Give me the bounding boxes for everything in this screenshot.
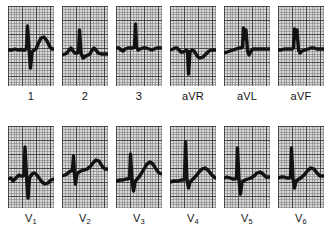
ecg-lead-v3: V3 [116,126,162,224]
ecg-trace-ii [62,6,108,86]
ecg-panel-avl [224,6,270,86]
ecg-panel-ii [62,6,108,86]
precordial-leads-row: V1V2V3V4V5V6 [0,126,329,224]
ecg-panel-v6 [278,126,324,208]
ecg-lead-v1: V1 [8,126,54,224]
ecg-trace-iii [116,6,162,86]
ecg-lead-v2: V2 [62,126,108,224]
ecg-trace-avl [224,6,270,86]
ecg-lead-label-text: V [241,212,249,224]
ecg-lead-label-iii: 3 [136,91,142,102]
ecg-lead-label-v2: V2 [79,213,91,224]
ecg-lead-v4: V4 [170,126,216,224]
ecg-lead-label-text: V [79,212,87,224]
ecg-lead-avl: aVL [224,6,270,102]
ecg-lead-ii: 2 [62,6,108,102]
ecg-lead-label-subscript: 3 [141,217,145,226]
ecg-lead-label-text: V [133,212,141,224]
ecg-lead-label-text: 2 [82,90,88,102]
ecg-lead-label-text: V [295,212,303,224]
ecg-trace-avf [278,6,324,86]
ecg-panel-iii [116,6,162,86]
ecg-lead-label-avf: aVF [291,91,312,102]
ecg-lead-label-v1: V1 [25,213,37,224]
ecg-lead-label-text: aVF [291,90,312,102]
ecg-trace-v1 [8,126,54,208]
ecg-panel-avr [170,6,216,86]
ecg-panel-v3 [116,126,162,208]
ecg-lead-label-subscript: 5 [249,217,253,226]
ecg-lead-v6: V6 [278,126,324,224]
ecg-lead-label-avr: aVR [182,91,204,102]
ecg-trace-v5 [224,126,270,208]
ecg-lead-label-subscript: 4 [195,217,199,226]
ecg-lead-i: 1 [8,6,54,102]
ecg-lead-label-avl: aVL [237,91,257,102]
ecg-panel-v5 [224,126,270,208]
ecg-trace-v4 [170,126,216,208]
ecg-trace-v3 [116,126,162,208]
ecg-panel-v4 [170,126,216,208]
ecg-lead-avr: aVR [170,6,216,102]
ecg-trace-i [8,6,54,86]
ecg-lead-label-subscript: 6 [303,217,307,226]
ecg-panel-avf [278,6,324,86]
ecg-lead-label-text: 3 [136,90,142,102]
ecg-lead-label-v3: V3 [133,213,145,224]
ecg-lead-label-text: V [25,212,33,224]
ecg-lead-label-text: V [187,212,195,224]
ecg-trace-v6 [278,126,324,208]
ecg-sheet: 123aVRaVLaVF V1V2V3V4V5V6 [0,0,329,246]
limb-leads-row: 123aVRaVLaVF [0,6,329,102]
ecg-lead-label-subscript: 1 [33,217,37,226]
ecg-trace-avr [170,6,216,86]
ecg-lead-avf: aVF [278,6,324,102]
ecg-panel-i [8,6,54,86]
ecg-lead-label-v5: V5 [241,213,253,224]
ecg-lead-label-text: aVL [237,90,257,102]
ecg-trace-v2 [62,126,108,208]
ecg-lead-v5: V5 [224,126,270,224]
ecg-lead-label-text: 1 [28,90,34,102]
ecg-lead-iii: 3 [116,6,162,102]
ecg-lead-label-text: aVR [182,90,204,102]
ecg-lead-label-subscript: 2 [87,217,91,226]
ecg-panel-v2 [62,126,108,208]
ecg-lead-label-i: 1 [28,91,34,102]
ecg-lead-label-v6: V6 [295,213,307,224]
ecg-panel-v1 [8,126,54,208]
ecg-lead-label-v4: V4 [187,213,199,224]
ecg-lead-label-ii: 2 [82,91,88,102]
